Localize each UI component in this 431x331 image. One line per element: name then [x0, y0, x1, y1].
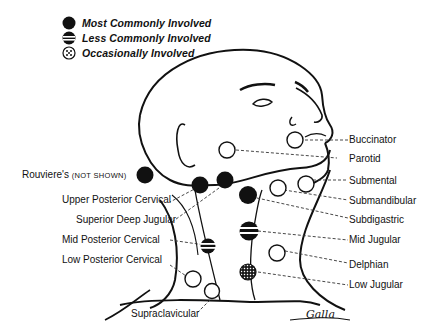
label-text: Rouviere's [22, 169, 69, 180]
striped-dot-icon [62, 31, 76, 45]
label-delphian: Delphian [349, 259, 388, 271]
artist-signature: Galla [306, 308, 335, 321]
legend-label: Occasionally Involved [82, 47, 194, 59]
label-buccinator: Buccinator [349, 134, 396, 146]
legend-item-most: Most Commonly Involved [62, 15, 211, 30]
legend-item-occasional: Occasionally Involved [62, 45, 211, 60]
rouvieres-node [137, 167, 154, 184]
label-submandibular: Submandibular [349, 195, 416, 207]
legend: Most Commonly Involved Less Commonly Inv… [62, 15, 211, 60]
label-rouvieres: Rouviere's (NOT SHOWN) [22, 169, 127, 182]
legend-item-less: Less Commonly Involved [62, 30, 211, 45]
label-mid-jugular: Mid Jugular [349, 234, 401, 246]
solid-dot-icon [62, 16, 76, 30]
label-subdigastric: Subdigastric [349, 214, 404, 226]
label-parotid: Parotid [349, 153, 381, 165]
label-mid-posterior-cervical: Mid Posterior Cervical [62, 234, 160, 246]
label-submental: Submental [349, 175, 397, 187]
legend-label: Most Commonly Involved [82, 17, 211, 29]
label-supraclavicular: Supraclavicular [131, 308, 199, 320]
label-low-posterior-cervical: Low Posterior Cervical [62, 254, 162, 266]
legend-label: Less Commonly Involved [82, 32, 211, 44]
label-upper-posterior-cervical: Upper Posterior Cervical [62, 194, 171, 206]
dotted-dot-icon [62, 46, 76, 60]
label-note: (NOT SHOWN) [72, 171, 127, 180]
label-low-jugular: Low Jugular [349, 279, 403, 291]
label-superior-deep-jugular: Superior Deep Jugular [76, 214, 176, 226]
